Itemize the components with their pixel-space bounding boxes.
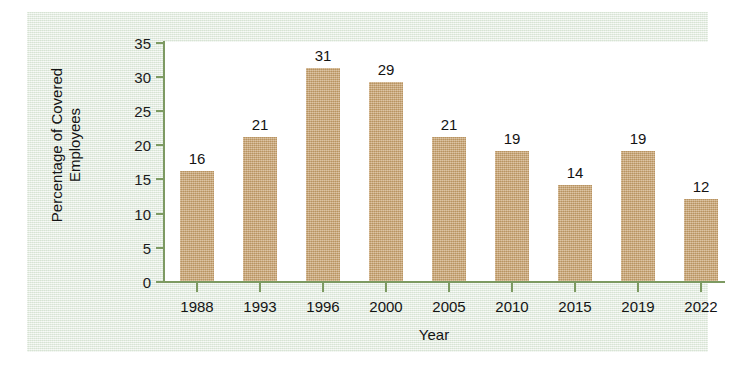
y-axis-title: Percentage of Covered Employees (48, 40, 84, 250)
y-tick-label-15: 15 (117, 171, 151, 188)
x-tick-label-1988: 1988 (162, 298, 232, 315)
x-tick-label-2010: 2010 (477, 298, 547, 315)
bar-2005 (432, 137, 466, 281)
y-tick-15 (156, 178, 164, 180)
chart-panel: 0 5 10 15 20 25 30 35 16 21 31 29 21 19 … (27, 12, 708, 352)
y-axis-title-line1: Percentage of Covered (48, 68, 65, 222)
bar-2010 (495, 151, 529, 281)
y-axis-title-line2: Employees (66, 108, 83, 182)
x-tick-2019 (637, 283, 639, 292)
y-tick-30 (156, 76, 164, 78)
bar-2015 (558, 185, 592, 281)
x-tick-label-2005: 2005 (414, 298, 484, 315)
x-tick-2000 (385, 283, 387, 292)
y-tick-0 (156, 281, 164, 283)
bar-value-1993: 21 (230, 116, 290, 133)
x-tick-2022 (700, 283, 702, 292)
x-tick-label-2000: 2000 (351, 298, 421, 315)
bar-2019 (621, 151, 655, 281)
bar-value-2010: 19 (482, 130, 542, 147)
y-tick-label-20: 20 (117, 137, 151, 154)
y-tick-20 (156, 144, 164, 146)
x-tick-2005 (448, 283, 450, 292)
y-tick-label-35: 35 (117, 35, 151, 52)
y-tick-10 (156, 213, 164, 215)
bar-1996 (306, 68, 340, 281)
bar-value-2005: 21 (419, 116, 479, 133)
bar-value-2022: 12 (671, 178, 731, 195)
bar-1993 (243, 137, 277, 281)
x-axis-line (163, 281, 725, 283)
x-tick-label-2022: 2022 (666, 298, 736, 315)
bar-value-2000: 29 (356, 61, 416, 78)
x-tick-1988 (196, 283, 198, 292)
bar-1988 (180, 171, 214, 281)
x-tick-1993 (259, 283, 261, 292)
x-tick-label-2015: 2015 (540, 298, 610, 315)
x-tick-label-1996: 1996 (288, 298, 358, 315)
bar-value-1996: 31 (293, 47, 353, 64)
x-tick-label-2019: 2019 (603, 298, 673, 315)
x-tick-2010 (511, 283, 513, 292)
y-tick-5 (156, 247, 164, 249)
bar-2022 (684, 199, 718, 281)
y-tick-35 (156, 42, 164, 44)
x-tick-label-1993: 1993 (225, 298, 295, 315)
y-tick-label-5: 5 (117, 240, 151, 257)
y-tick-25 (156, 110, 164, 112)
y-tick-label-30: 30 (117, 69, 151, 86)
bar-value-2015: 14 (545, 164, 605, 181)
y-tick-label-10: 10 (117, 206, 151, 223)
y-tick-label-25: 25 (117, 103, 151, 120)
bar-value-2019: 19 (608, 130, 668, 147)
x-tick-1996 (322, 283, 324, 292)
y-tick-label-0: 0 (117, 274, 151, 291)
chart-figure: 0 5 10 15 20 25 30 35 16 21 31 29 21 19 … (0, 0, 736, 371)
bar-value-1988: 16 (167, 150, 227, 167)
x-axis-title: Year (364, 326, 504, 343)
x-tick-2015 (574, 283, 576, 292)
bar-2000 (369, 82, 403, 281)
